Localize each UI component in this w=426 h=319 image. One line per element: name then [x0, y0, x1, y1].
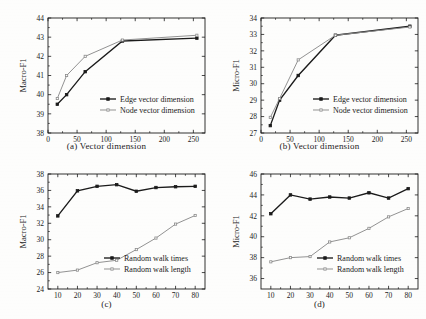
chart-d-svg: 1020304050607080363840424446Micro-F1Rand…	[213, 158, 426, 317]
data-point-marker	[115, 183, 118, 186]
data-point-marker	[196, 34, 198, 36]
data-point-marker	[116, 259, 118, 261]
data-point-marker	[76, 190, 79, 193]
chart-panel-b: 0501001502002502728293031323334Micro-F1E…	[213, 0, 426, 159]
y-tick-label: 34	[250, 14, 258, 23]
data-point-marker	[297, 59, 299, 61]
legend-swatch-marker	[320, 98, 323, 101]
y-tick-label: 43	[37, 33, 45, 42]
data-point-marker	[96, 262, 98, 264]
data-point-marker	[56, 97, 58, 99]
y-tick-label: 41	[37, 71, 45, 80]
y-tick-label: 34	[37, 203, 45, 212]
data-point-marker	[65, 93, 68, 96]
data-point-marker	[368, 227, 370, 229]
data-point-marker	[309, 198, 312, 201]
legend-swatch-marker	[324, 257, 327, 260]
y-tick-label: 44	[250, 191, 258, 200]
y-tick-label: 27	[250, 129, 258, 138]
y-tick-label: 36	[37, 186, 45, 195]
y-tick-label: 31	[250, 63, 258, 72]
y-tick-label: 40	[37, 90, 45, 99]
y-tick-label: 36	[250, 274, 258, 283]
data-point-marker	[407, 187, 410, 190]
legend-swatch-marker	[107, 109, 109, 111]
data-point-marker	[270, 212, 273, 215]
data-point-marker	[329, 241, 331, 243]
data-point-marker	[279, 97, 281, 99]
y-axis-title: Macro-F1	[18, 215, 28, 249]
y-axis-title: Micro-F1	[231, 215, 241, 248]
y-axis-title: Micro-F1	[231, 59, 241, 92]
y-tick-label: 42	[37, 52, 45, 61]
data-point-marker	[84, 55, 86, 57]
y-tick-label: 40	[250, 232, 258, 241]
data-point-marker	[96, 185, 99, 188]
chart-b-caption: (b) Vector dimension	[213, 141, 426, 151]
y-tick-label: 38	[37, 170, 45, 179]
chart-b-svg: 0501001502002502728293031323334Micro-F1E…	[213, 0, 426, 159]
data-point-marker	[368, 192, 371, 195]
y-tick-label: 26	[37, 268, 45, 277]
data-point-marker	[194, 214, 196, 216]
data-point-marker	[56, 103, 59, 106]
y-tick-label: 30	[250, 79, 258, 88]
y-axis-title: Macro-F1	[18, 59, 28, 93]
data-point-marker	[289, 257, 291, 259]
data-point-marker	[297, 74, 300, 77]
data-point-marker	[289, 194, 292, 197]
legend-label: Random walk length	[124, 265, 191, 274]
legend-label: Random walk length	[337, 265, 404, 274]
figure-root: 05010015020025038394041424344Macro-F1Edg…	[0, 0, 426, 319]
y-tick-label: 29	[250, 96, 258, 105]
legend-label: Random walk times	[337, 254, 401, 263]
data-point-marker	[387, 216, 389, 218]
data-point-marker	[76, 269, 78, 271]
data-point-marker	[196, 37, 199, 40]
data-point-marker	[270, 261, 272, 263]
data-point-marker	[334, 34, 336, 36]
data-point-marker	[309, 255, 311, 257]
chart-a-caption: (a) Vector dimension	[0, 141, 213, 151]
legend-swatch-marker	[324, 268, 326, 270]
data-point-marker	[155, 186, 158, 189]
legend-swatch-marker	[107, 98, 110, 101]
legend-label: Random walk times	[124, 254, 188, 263]
data-point-marker	[387, 197, 390, 200]
data-point-marker	[174, 185, 177, 188]
y-tick-label: 28	[37, 252, 45, 261]
chart-panel-c: 10203040506070802426283032343638Macro-F1…	[0, 158, 213, 317]
data-point-marker	[194, 185, 197, 188]
chart-a-svg: 05010015020025038394041424344Macro-F1Edg…	[0, 0, 213, 159]
legend-label: Node vector dimension	[120, 106, 195, 115]
data-point-marker	[269, 124, 272, 127]
y-tick-label: 33	[250, 30, 258, 39]
legend-label: Edge vector dimension	[333, 95, 407, 104]
plot-frame	[48, 18, 205, 133]
data-point-marker	[348, 197, 351, 200]
data-point-marker	[121, 39, 123, 41]
y-tick-label: 38	[250, 253, 258, 262]
y-tick-label: 32	[250, 47, 258, 56]
chart-panel-a: 05010015020025038394041424344Macro-F1Edg…	[0, 0, 213, 159]
y-tick-label: 28	[250, 112, 258, 121]
legend-label: Node vector dimension	[333, 106, 408, 115]
y-tick-label: 32	[37, 219, 45, 228]
y-tick-label: 42	[250, 212, 258, 221]
legend-swatch-marker	[111, 257, 114, 260]
data-point-marker	[84, 70, 87, 73]
data-point-marker	[155, 237, 157, 239]
data-point-marker	[328, 196, 331, 199]
data-point-marker	[348, 237, 350, 239]
y-tick-label: 38	[37, 129, 45, 138]
y-tick-label: 44	[37, 14, 45, 23]
y-tick-label: 30	[37, 235, 45, 244]
legend-swatch-marker	[320, 109, 322, 111]
data-point-marker	[57, 215, 60, 218]
series-line	[57, 35, 197, 98]
chart-c-caption: (c)	[0, 299, 213, 309]
legend-label: Edge vector dimension	[120, 95, 194, 104]
y-tick-label: 24	[37, 285, 45, 294]
data-point-marker	[269, 116, 271, 118]
chart-d-caption: (d)	[213, 299, 426, 309]
